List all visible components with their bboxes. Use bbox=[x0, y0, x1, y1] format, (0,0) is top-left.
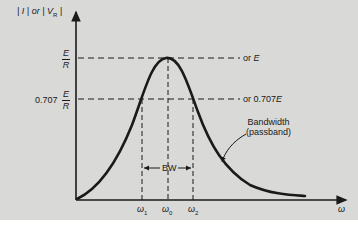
c707-label: ER bbox=[62, 90, 70, 111]
er-label: ER bbox=[62, 49, 70, 70]
bandwidth-label: Bandwidth (passband) bbox=[246, 117, 291, 137]
resonance-plot bbox=[0, 0, 358, 228]
omega-axis-label: ω bbox=[338, 204, 345, 214]
w1-label: ω1 bbox=[137, 204, 147, 218]
or-e-label: or E bbox=[243, 53, 260, 63]
bw-label: BW bbox=[162, 163, 177, 173]
figure: | I | or | VR | ER 0.707 ER or E or 0.70… bbox=[0, 0, 358, 228]
w0-label: ω0 bbox=[162, 204, 172, 218]
w2-label: ω2 bbox=[188, 204, 198, 218]
y-axis-label: | I | or | VR | bbox=[17, 6, 62, 20]
or-707-label: or 0.707E bbox=[243, 94, 282, 104]
c707-prefix: 0.707 bbox=[35, 95, 58, 105]
bandwidth-pointer bbox=[222, 134, 246, 162]
